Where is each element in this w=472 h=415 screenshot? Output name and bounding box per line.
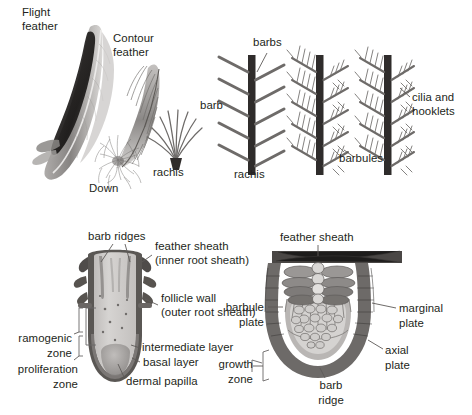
label-growth-zone-line1: growth <box>185 358 253 371</box>
label-inner-root-sheath: (inner root sheath) <box>155 254 249 267</box>
label-barb-ridge-line2: ridge <box>305 394 357 407</box>
label-flight-feather-line2: feather <box>22 20 58 33</box>
label-proliferation-zone-line2: zone <box>0 378 78 391</box>
label-flight-feather-line1: Flight <box>22 6 50 19</box>
label-proliferation-zone-line1: proliferation <box>0 363 78 376</box>
label-feather-sheath-cross-section: feather sheath <box>280 231 354 244</box>
label-cilia-hooklets-line1: cilia and <box>412 91 454 104</box>
label-barbules: barbules <box>339 152 383 165</box>
label-barb-ridge-line1: barb <box>305 379 357 392</box>
label-down: Down <box>89 182 118 195</box>
label-contour-feather-line2: feather <box>113 46 149 59</box>
label-cilia-hooklets-line2: hooklets <box>412 105 455 118</box>
label-barb: barb <box>200 99 223 112</box>
label-axial-plate-line1: axial <box>385 344 409 357</box>
label-intermediate-layer: intermediate layer <box>142 341 233 354</box>
label-barbule-plate-line2: plate <box>180 316 264 329</box>
label-feather-sheath-longitudinal: feather sheath <box>155 240 229 253</box>
rachis-barbs-schematic <box>219 53 284 175</box>
label-rachis-barb-schematic: rachis <box>234 168 265 181</box>
label-barbule-plate-line1: barbule <box>180 301 264 314</box>
follicle-cross-section-drawing <box>265 251 402 378</box>
label-ramogenic-zone-line1: ramogenic <box>0 332 72 345</box>
label-marginal-plate-line2: plate <box>399 317 424 330</box>
label-ramogenic-zone-line2: zone <box>0 347 72 360</box>
label-contour-feather-line1: Contour <box>113 32 154 45</box>
label-barbs: barbs <box>253 36 282 49</box>
label-marginal-plate-line1: marginal <box>399 302 443 315</box>
label-rachis-down-schematic: rachis <box>153 166 184 179</box>
figure-canvas: Flight feather Contour feather Down rach… <box>0 0 472 415</box>
label-barb-ridges: barb ridges <box>88 230 146 243</box>
down-schematic-drawing <box>147 110 202 170</box>
label-growth-zone-line2: zone <box>185 373 253 386</box>
contour-feather-image <box>116 65 160 168</box>
flight-feather-image <box>32 25 114 180</box>
label-axial-plate-line2: plate <box>385 359 410 372</box>
